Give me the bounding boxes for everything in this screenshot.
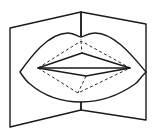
popup-lips-diagram: [0, 0, 157, 139]
